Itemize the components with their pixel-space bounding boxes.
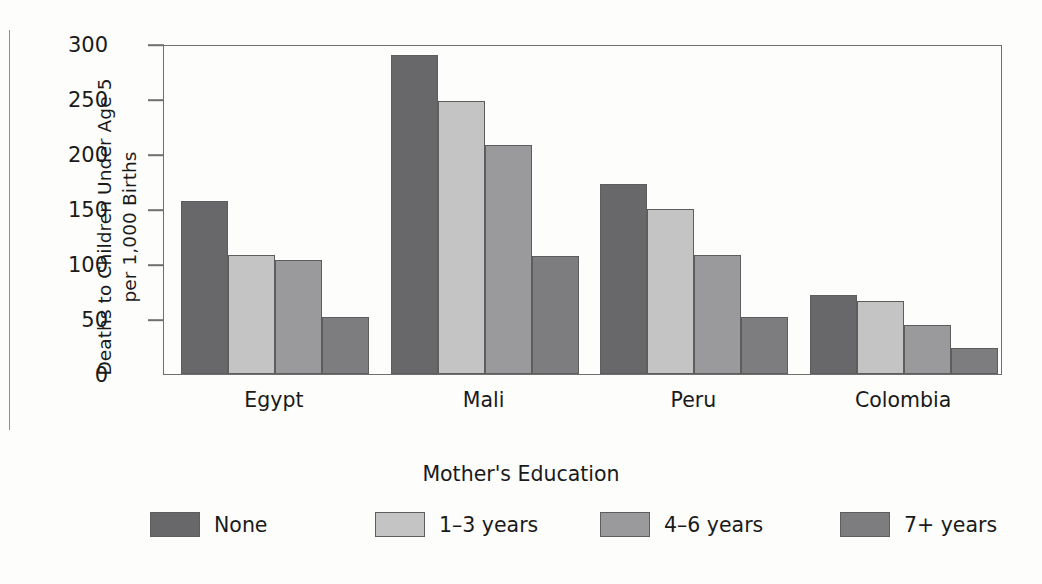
- legend-swatch-icon: [840, 512, 890, 537]
- bar: [532, 256, 579, 374]
- bar-group: [810, 46, 998, 374]
- bar: [391, 55, 438, 374]
- y-axis-tick-label: 250: [68, 88, 108, 112]
- bar: [322, 317, 369, 374]
- chart-legend: None1–3 years4–6 years7+ years: [150, 512, 1030, 552]
- legend-swatch-icon: [600, 512, 650, 537]
- bar: [857, 301, 904, 374]
- y-axis-tick-mark: [148, 44, 164, 46]
- x-axis-category-label: Colombia: [855, 388, 951, 412]
- x-axis-category-label: Peru: [671, 388, 717, 412]
- y-axis-tick-mark: [148, 209, 164, 211]
- x-axis-title: Mother's Education: [0, 462, 1042, 486]
- y-axis-tick-label: 150: [68, 198, 108, 222]
- bar-group: [181, 46, 369, 374]
- y-axis-tick-mark: [148, 319, 164, 321]
- bar: [904, 325, 951, 375]
- chart-figure: Deaths to Children Under Age 5 per 1,000…: [0, 0, 1042, 584]
- y-axis-tick-labels: 050100150200250300: [0, 0, 163, 584]
- bar: [647, 209, 694, 374]
- bar: [694, 255, 741, 374]
- y-axis-tick-label: 300: [68, 33, 108, 57]
- y-axis-tick-label: 50: [81, 308, 108, 332]
- y-axis-tick-mark: [148, 99, 164, 101]
- legend-item[interactable]: 4–6 years: [600, 512, 763, 537]
- y-axis-tick-label: 100: [68, 253, 108, 277]
- bar: [438, 101, 485, 374]
- legend-item[interactable]: 7+ years: [840, 512, 997, 537]
- x-axis-category-labels: EgyptMaliPeruColombia: [163, 388, 1002, 422]
- bar: [810, 295, 857, 374]
- bar-group: [391, 46, 579, 374]
- legend-swatch-icon: [375, 512, 425, 537]
- legend-item[interactable]: None: [150, 512, 267, 537]
- x-axis-category-label: Mali: [463, 388, 505, 412]
- bar: [951, 348, 998, 374]
- y-axis-tick-label: 0: [95, 363, 108, 387]
- legend-label: 1–3 years: [439, 513, 538, 537]
- y-axis-tick-mark: [148, 154, 164, 156]
- y-axis-tick-mark: [148, 264, 164, 266]
- plot-area: [163, 45, 1002, 375]
- bar: [181, 201, 228, 374]
- bar-series-container: [164, 46, 1001, 374]
- x-axis-category-label: Egypt: [244, 388, 303, 412]
- y-axis-tick-label: 200: [68, 143, 108, 167]
- bar: [275, 260, 322, 374]
- legend-label: 7+ years: [904, 513, 997, 537]
- bar: [741, 317, 788, 374]
- bar: [228, 255, 275, 374]
- legend-swatch-icon: [150, 512, 200, 537]
- bar: [600, 184, 647, 374]
- bar-group: [600, 46, 788, 374]
- legend-label: 4–6 years: [664, 513, 763, 537]
- legend-item[interactable]: 1–3 years: [375, 512, 538, 537]
- legend-label: None: [214, 513, 267, 537]
- bar: [485, 145, 532, 374]
